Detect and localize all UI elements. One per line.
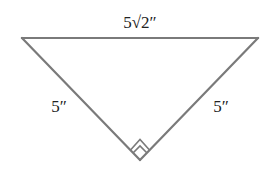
- right-angle-marker-icon-outer: [131, 140, 150, 151]
- triangle-diagram: 5√2″ 5″ 5″: [0, 0, 272, 170]
- left-leg-label: 5″: [51, 97, 67, 116]
- right-angle-marker-icon: [133, 146, 147, 153]
- right-leg-label: 5″: [213, 97, 229, 116]
- right-leg-edge: [140, 38, 258, 160]
- diagram-svg: 5√2″ 5″ 5″: [0, 0, 272, 170]
- hypotenuse-label: 5√2″: [123, 13, 156, 32]
- left-leg-edge: [22, 38, 140, 160]
